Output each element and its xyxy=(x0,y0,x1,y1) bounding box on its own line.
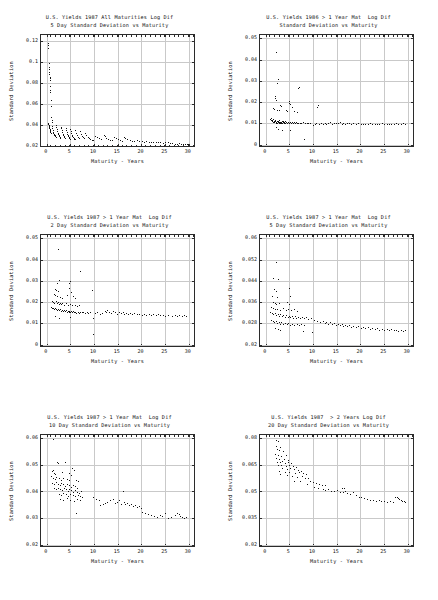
data-point xyxy=(172,143,173,144)
x-tick-label: 0 xyxy=(44,149,47,154)
data-point xyxy=(75,486,76,487)
x-minor-tick xyxy=(122,435,123,437)
data-point xyxy=(153,142,154,143)
x-minor-tick xyxy=(183,235,184,237)
data-point xyxy=(285,472,286,473)
data-point xyxy=(353,123,354,124)
data-point xyxy=(55,474,56,475)
x-minor-tick xyxy=(131,435,132,437)
panel-title: U.S. Yields 1987 > 1 Year Mat Log Dif5 D… xyxy=(219,214,438,229)
data-point xyxy=(59,304,60,305)
x-minor-tick xyxy=(126,235,127,237)
data-point xyxy=(390,501,391,502)
x-minor-tick xyxy=(393,235,394,237)
data-point xyxy=(289,465,290,466)
x-tick-mark xyxy=(47,235,48,237)
x-minor-tick xyxy=(345,235,346,237)
data-point xyxy=(128,314,129,315)
data-point xyxy=(66,303,67,304)
data-point xyxy=(139,506,140,507)
x-minor-tick xyxy=(112,235,113,237)
x-minor-tick xyxy=(379,235,380,237)
x-minor-tick xyxy=(298,35,299,37)
data-point xyxy=(276,446,277,447)
x-minor-tick xyxy=(141,235,142,237)
data-point xyxy=(122,141,123,142)
data-point xyxy=(353,492,354,493)
data-point xyxy=(74,501,75,502)
y-tick-mark xyxy=(260,123,262,124)
data-point xyxy=(76,513,77,514)
data-point xyxy=(301,471,302,472)
data-point xyxy=(275,328,276,329)
x-minor-tick xyxy=(79,435,80,437)
data-point xyxy=(289,123,290,124)
gridline-horizontal xyxy=(260,281,413,282)
data-point xyxy=(62,298,63,299)
data-point xyxy=(111,313,112,314)
x-tick-mark xyxy=(70,435,71,437)
chart-panel-5: U.S. Yields 1987 > 1 Year Mat Log Dif10 … xyxy=(0,400,219,600)
data-point xyxy=(73,492,74,493)
panel-title: U.S. Yields 1987 > 1 Year Mat Log Dif10 … xyxy=(0,414,219,429)
x-minor-tick xyxy=(402,35,403,37)
y-tick-mark xyxy=(192,323,194,324)
data-point xyxy=(376,501,377,502)
data-point xyxy=(340,492,341,493)
x-tick-mark xyxy=(165,235,166,237)
data-point xyxy=(396,123,397,124)
data-point xyxy=(356,495,357,496)
data-point xyxy=(73,485,74,486)
y-tick-mark xyxy=(260,145,262,146)
data-point xyxy=(93,140,94,141)
data-point xyxy=(345,124,346,125)
data-point xyxy=(137,507,138,508)
data-point xyxy=(79,305,80,306)
y-tick-mark xyxy=(411,123,413,124)
data-point xyxy=(318,488,319,489)
data-point xyxy=(121,504,122,505)
data-point xyxy=(60,485,61,486)
data-point xyxy=(278,465,279,466)
data-point xyxy=(405,502,406,503)
data-point xyxy=(57,303,58,304)
x-minor-tick xyxy=(369,435,370,437)
data-point xyxy=(68,496,69,497)
data-point xyxy=(283,308,284,309)
y-tick-mark xyxy=(411,81,413,82)
data-point xyxy=(379,124,380,125)
x-tick-label: 20 xyxy=(137,149,143,154)
x-tick-label: 5 xyxy=(287,149,290,154)
y-tick-label: 0.03 xyxy=(245,77,257,82)
data-point xyxy=(271,307,272,308)
data-point xyxy=(289,288,290,289)
x-minor-tick xyxy=(84,435,85,437)
x-minor-tick xyxy=(412,35,413,37)
data-point xyxy=(185,144,186,145)
data-point xyxy=(165,142,166,143)
data-point xyxy=(144,142,145,143)
data-point xyxy=(106,138,107,139)
x-minor-tick xyxy=(193,235,194,237)
data-point xyxy=(65,486,66,487)
data-point xyxy=(105,503,106,504)
data-point xyxy=(340,325,341,326)
data-point xyxy=(54,303,55,304)
x-minor-tick xyxy=(293,35,294,37)
data-point xyxy=(300,481,301,482)
data-point xyxy=(342,324,343,325)
x-tick-mark xyxy=(289,435,290,437)
x-tick-mark xyxy=(118,235,119,237)
x-tick-label: 20 xyxy=(137,349,143,354)
data-point xyxy=(372,328,373,329)
y-tick-mark xyxy=(192,545,194,546)
panel-title-line2: 10 Day Standard Deviation vs Maturity xyxy=(0,422,219,430)
x-minor-tick xyxy=(98,435,99,437)
data-point xyxy=(119,500,120,501)
data-point xyxy=(60,138,61,139)
data-point xyxy=(175,515,176,516)
data-point xyxy=(343,123,344,124)
data-point xyxy=(75,139,76,140)
x-minor-tick xyxy=(407,35,408,37)
data-point xyxy=(69,288,70,289)
